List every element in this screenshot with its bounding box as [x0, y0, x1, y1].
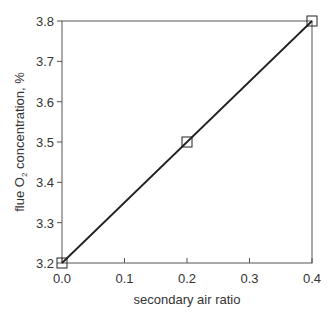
x-tick-label: 0.4 — [303, 271, 321, 286]
data-line — [62, 21, 312, 263]
y-tick-label: 3.3 — [36, 216, 54, 231]
y-tick-label: 3.6 — [36, 95, 54, 110]
x-axis-title: secondary air ratio — [134, 292, 241, 307]
y-tick-label: 3.7 — [36, 54, 54, 69]
x-tick-label: 0.1 — [115, 271, 133, 286]
y-tick-label: 3.2 — [36, 256, 54, 271]
x-tick-label: 0.0 — [53, 271, 71, 286]
y-tick-label: 3.8 — [36, 14, 54, 29]
y-tick-label: 3.5 — [36, 135, 54, 150]
y-tick-label: 3.4 — [36, 175, 54, 190]
x-tick-label: 0.3 — [240, 271, 258, 286]
x-tick-label: 0.2 — [178, 271, 196, 286]
chart: 0.00.10.20.30.43.23.33.43.53.63.73.8 sec… — [0, 0, 333, 326]
y-axis-title: flue O2 concentration, % — [12, 72, 29, 212]
plot-area: 0.00.10.20.30.43.23.33.43.53.63.73.8 — [36, 14, 321, 286]
